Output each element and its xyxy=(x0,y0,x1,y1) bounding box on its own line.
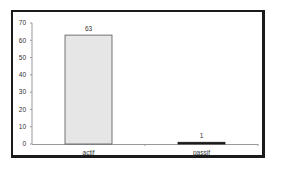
y-tick-label: 40 xyxy=(19,71,27,78)
y-tick-label: 70 xyxy=(19,19,27,26)
bar-passif xyxy=(178,142,225,144)
y-tick-label: 30 xyxy=(19,88,27,95)
bar-chart: 01020304050607063actif1passif xyxy=(0,0,283,176)
y-tick-label: 10 xyxy=(19,123,27,130)
category-label: actif xyxy=(83,149,95,156)
y-tick-label: 50 xyxy=(19,54,27,61)
data-label: 63 xyxy=(85,25,93,32)
bar-actif xyxy=(65,35,112,144)
y-tick-label: 20 xyxy=(19,106,27,113)
category-label: passif xyxy=(193,149,210,157)
y-tick-label: 60 xyxy=(19,37,27,44)
y-tick-label: 0 xyxy=(22,140,26,147)
data-label: 1 xyxy=(200,132,204,139)
